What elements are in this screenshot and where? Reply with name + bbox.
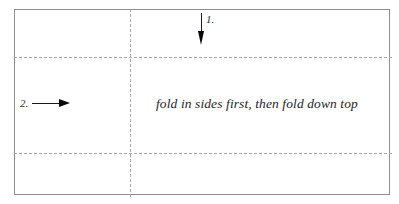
arrow-right-icon	[32, 99, 70, 109]
fold-line-horizontal-bottom	[14, 153, 392, 154]
instruction-caption: fold in sides first, then fold down top	[156, 97, 358, 112]
fold-diagram: 1. 2. fold in sides first, then fold dow…	[0, 0, 399, 204]
arrow-down-head	[198, 31, 204, 45]
arrow-right-head	[59, 99, 70, 107]
fold-line-horizontal-top	[14, 57, 392, 58]
step-1-label: 1.	[206, 14, 214, 25]
step-2-label: 2.	[20, 98, 28, 109]
arrow-right-shaft	[32, 103, 61, 104]
arrow-down-shaft	[201, 13, 202, 33]
fold-line-vertical-middle	[130, 9, 131, 197]
